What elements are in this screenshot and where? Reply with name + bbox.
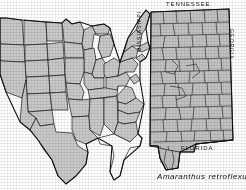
species-distribution-figure: TENNESSEE MISSISSIPPI GEORGIA FLORIDA Am… [0,0,246,190]
label-florida: FLORIDA [181,145,213,151]
label-georgia: GEORGIA [229,29,234,60]
us-map-group [0,10,150,184]
map-artwork [0,0,246,190]
label-tennessee: TENNESSEE [166,1,210,7]
label-mississippi: MISSISSIPPI [137,11,142,52]
species-name-caption: Amaranthus retroflexus [157,172,246,181]
